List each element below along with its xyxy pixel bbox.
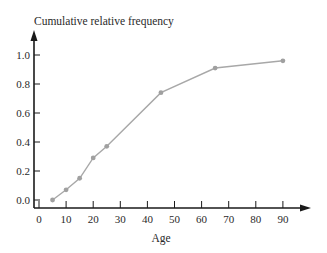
y-tick-label: 0.8 (16, 78, 30, 90)
x-tick-label: 90 (277, 213, 289, 225)
data-point (91, 156, 96, 161)
y-axis-ticks: 0.00.20.40.60.81.0 (16, 49, 40, 206)
x-tick-label: 40 (142, 213, 154, 225)
chart-canvas: Cumulative relative frequency 0.00.20.40… (0, 0, 327, 253)
y-tick-label: 0.6 (16, 107, 30, 119)
y-axis-title: Cumulative relative frequency (34, 15, 174, 28)
data-point (64, 187, 69, 192)
y-axis-arrow-icon (31, 30, 38, 41)
data-point (281, 58, 286, 63)
data-point (159, 90, 164, 95)
y-tick-label: 1.0 (16, 49, 30, 61)
x-tick-label: 80 (250, 213, 262, 225)
data-series (50, 58, 285, 202)
data-point (213, 66, 218, 71)
x-axis-arrow-icon (300, 205, 311, 212)
x-tick-label: 10 (61, 213, 73, 225)
x-tick-label: 60 (196, 213, 208, 225)
data-point (77, 176, 82, 181)
x-tick-label: 20 (88, 213, 100, 225)
ogive-chart: Cumulative relative frequency 0.00.20.40… (0, 0, 327, 253)
y-tick-label: 0.4 (16, 136, 30, 148)
y-tick-label: 0.0 (16, 194, 30, 206)
x-tick-label: 50 (169, 213, 181, 225)
series-line (53, 61, 283, 200)
y-tick-label: 0.2 (16, 165, 30, 177)
x-tick-label: 0 (36, 213, 42, 225)
x-tick-label: 30 (115, 213, 127, 225)
x-tick-label: 70 (223, 213, 235, 225)
data-point (50, 198, 55, 203)
data-point (104, 144, 109, 149)
x-axis-title: Age (151, 232, 170, 245)
x-axis-ticks: 0102030405060708090 (36, 201, 289, 225)
